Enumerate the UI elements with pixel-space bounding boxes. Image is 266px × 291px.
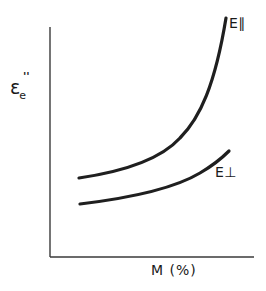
- y-axis-label-superscript: '': [23, 70, 30, 83]
- legend-e-perpendicular: E⊥: [215, 164, 237, 180]
- y-axis-label-subscript: e: [19, 89, 26, 102]
- y-axis-label: εe'': [10, 76, 27, 98]
- legend-e-parallel: E∥: [229, 15, 246, 31]
- x-axis-label: M (%): [151, 262, 197, 278]
- plot-area: [0, 0, 266, 291]
- curve-e-parallel: [79, 18, 226, 178]
- curve-e-perpendicular: [80, 151, 229, 204]
